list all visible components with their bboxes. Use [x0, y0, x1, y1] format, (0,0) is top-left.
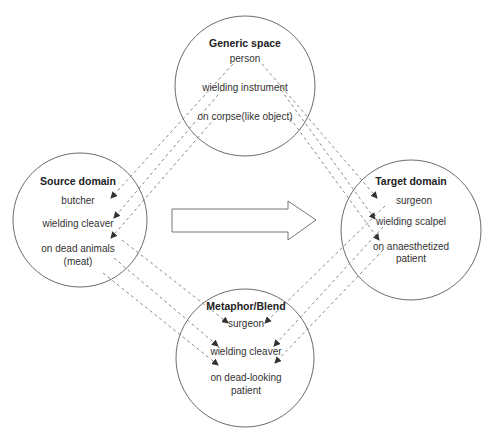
target-domain-title: Target domain — [375, 175, 447, 187]
source-item-agent: butcher — [61, 195, 94, 207]
blend-item-tool: wielding cleaver — [210, 346, 281, 358]
source-domain-title: Source domain — [40, 175, 116, 187]
blend-item-patient-line2: patient — [231, 385, 261, 397]
target-item-patient-line2: patient — [396, 253, 426, 265]
generic-space-title: Generic space — [209, 37, 281, 49]
blend-title: Metaphor/Blend — [206, 300, 285, 312]
source-item-tool: wielding cleaver — [42, 218, 113, 230]
target-item-agent: surgeon — [396, 195, 432, 207]
mapping-arrow-icon — [172, 201, 316, 240]
target-item-patient-line1: on anaesthetized — [373, 241, 449, 253]
source-item-patient-line2: (meat) — [64, 256, 93, 268]
generic-item-instrument: wielding instrument — [202, 82, 288, 94]
blend-item-patient-line1: on dead-looking — [210, 372, 281, 384]
generic-item-object: on corpse(like object) — [197, 111, 292, 123]
generic-item-person: person — [230, 53, 261, 65]
source-item-patient-line1: on dead animals — [41, 243, 114, 255]
blend-item-agent: surgeon — [228, 318, 264, 330]
target-item-tool: wielding scalpel — [376, 216, 446, 228]
